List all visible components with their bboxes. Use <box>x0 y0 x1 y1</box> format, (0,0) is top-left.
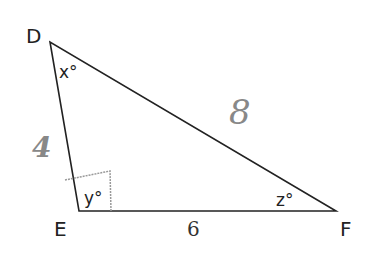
triangle-svg: D E F x° y° z° 4 8 6 <box>0 0 367 254</box>
vertex-label-f: F <box>340 217 352 241</box>
side-label-de: 4 <box>32 131 51 164</box>
triangle-def <box>50 42 336 211</box>
vertex-label-e: E <box>54 217 67 241</box>
angle-label-z: z° <box>276 190 293 210</box>
vertex-label-d: D <box>26 24 41 48</box>
angle-label-x: x° <box>59 62 78 82</box>
triangle-diagram: D E F x° y° z° 4 8 6 <box>0 0 367 254</box>
side-label-ef: 6 <box>187 217 200 241</box>
angle-label-y: y° <box>84 188 103 208</box>
side-label-df: 8 <box>229 92 251 132</box>
